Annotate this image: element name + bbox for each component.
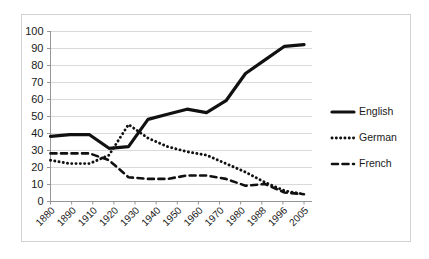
x-axis-tick-label: 1980 [224,204,248,228]
line-chart: 1009080706050403020100 18801890191019201… [0,0,429,259]
legend-label-french: French [359,157,392,169]
x-axis-tick-label: 1960 [181,204,205,228]
legend-label-german: German [359,131,397,143]
x-axis-tick-label: 1890 [55,204,79,228]
x-axis-tick-labels: 1880189019101920193019401950196019701980… [33,204,310,228]
legend-label-english: English [359,105,394,117]
series-line-french [51,153,305,194]
y-axis-tick-label: 30 [31,144,43,156]
y-axis-tick-label: 60 [31,93,43,105]
y-axis-tick-label: 50 [31,110,43,122]
x-axis-tick-label: 1910 [76,204,100,228]
y-axis-tick-label: 10 [31,178,43,190]
y-axis-tick-label: 80 [31,59,43,71]
x-axis-tick-label: 1988 [245,204,269,228]
series-line-english [51,45,305,149]
x-axis-tick-label: 1880 [33,204,57,228]
x-axis-tick-label: 1970 [202,204,226,228]
x-axis-tick-label: 1940 [139,204,163,228]
x-axis-tick-label: 1930 [118,204,142,228]
x-axis-tick-label: 1920 [97,204,121,228]
y-axis-tick-label: 20 [31,161,43,173]
x-axis-tick-label: 1950 [160,204,184,228]
y-axis-tick-label: 90 [31,42,43,54]
data-series-group [51,45,305,195]
y-axis-tick-label: 0 [37,195,43,207]
y-axis-tick-label: 100 [25,25,43,37]
y-axis-tick-labels: 1009080706050403020100 [25,25,43,207]
x-axis-tick-label: 1996 [266,204,290,228]
x-axis-tick-label: 2005 [287,204,311,228]
y-axis-tick-label: 40 [31,127,43,139]
y-axis-tick-label: 70 [31,76,43,88]
chart-legend: EnglishGermanFrench [332,105,397,169]
